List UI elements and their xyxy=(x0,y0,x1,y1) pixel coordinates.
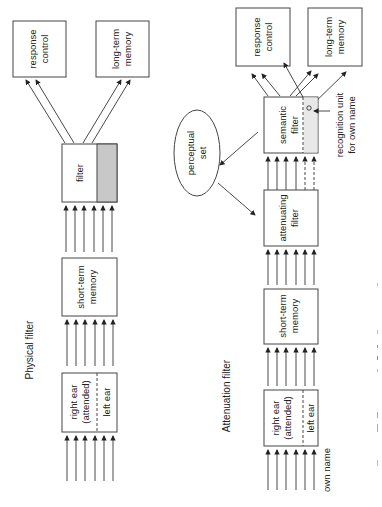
physical-response-control-box: response control xyxy=(13,21,66,77)
physical-filter-title: Physical filter xyxy=(24,320,35,380)
attenuating-to-semantic-arrows xyxy=(268,157,314,190)
physical-input-arrows xyxy=(67,436,113,481)
svg-text:semantic: semantic xyxy=(277,106,288,144)
svg-text:set: set xyxy=(197,146,208,159)
attenuation-stm-to-filter-arrows xyxy=(268,250,314,285)
perceptual-set-ellipse: perceptual set xyxy=(174,110,220,196)
attenuation-filter-diagram: response control long-term memory semant… xyxy=(174,8,362,492)
physical-stm-to-filter-arrows xyxy=(66,206,112,252)
svg-text:perceptual: perceptual xyxy=(185,131,196,175)
physical-filter-box: filter xyxy=(62,144,117,202)
svg-text:recognition unit: recognition unit xyxy=(334,92,345,157)
attenuation-input-arrows xyxy=(268,450,314,490)
attenuation-long-term-memory-box: long-term memory xyxy=(308,8,362,66)
svg-text:memory: memory xyxy=(87,270,98,305)
svg-text:memory: memory xyxy=(122,32,133,67)
svg-text:left ear: left ear xyxy=(305,403,316,432)
svg-text:control: control xyxy=(39,35,50,64)
perceptual-set-arrows xyxy=(218,132,258,215)
svg-text:filter: filter xyxy=(289,116,300,134)
attenuation-response-control-box: response control xyxy=(236,8,290,66)
physical-ears-box: right ear (attended) left ear xyxy=(62,373,117,432)
svg-text:short-term: short-term xyxy=(277,294,288,337)
attenuation-ears-box: right ear (attended) left ear xyxy=(264,390,318,446)
physical-long-term-memory-box: long-term memory xyxy=(96,21,149,77)
svg-text:short-term: short-term xyxy=(75,265,86,308)
svg-text:right ear: right ear xyxy=(68,385,79,420)
svg-text:right ear: right ear xyxy=(270,401,281,436)
attenuation-ears-to-stm-arrows xyxy=(268,348,314,386)
svg-text:attenuating: attenuating xyxy=(277,194,288,241)
svg-text:filter: filter xyxy=(289,209,300,227)
diagram-canvas: response control long-term memory filter xyxy=(0,0,382,507)
svg-text:response: response xyxy=(27,29,38,68)
physical-filter-diagram: response control long-term memory filter xyxy=(13,21,149,481)
attenuation-filter-title: Attenuation filter xyxy=(221,359,232,432)
svg-text:response: response xyxy=(251,17,262,56)
svg-text:long-term: long-term xyxy=(323,17,334,57)
svg-text:long-term: long-term xyxy=(110,29,121,69)
attenuation-short-term-memory-box: short-term memory xyxy=(264,289,318,344)
svg-text:filter: filter xyxy=(74,164,85,182)
attenuating-filter-box: attenuating filter xyxy=(264,190,318,246)
physical-output-arrows xyxy=(26,80,130,143)
svg-text:left ear: left ear xyxy=(101,387,112,416)
svg-text:control: control xyxy=(263,23,274,52)
own-name-label: own name xyxy=(321,448,332,492)
recognition-unit-label: recognition unit for own name xyxy=(314,92,357,157)
svg-text:for own name: for own name xyxy=(346,96,357,154)
cut-off-caption xyxy=(377,283,378,466)
svg-text:memory: memory xyxy=(289,299,300,334)
svg-text:(attended): (attended) xyxy=(282,396,293,439)
svg-text:memory: memory xyxy=(335,20,346,55)
semantic-filter-box: semantic filter xyxy=(264,97,318,153)
svg-text:(attended): (attended) xyxy=(80,380,91,423)
physical-short-term-memory-box: short-term memory xyxy=(62,258,117,316)
physical-ears-to-stm-arrows xyxy=(67,320,113,366)
